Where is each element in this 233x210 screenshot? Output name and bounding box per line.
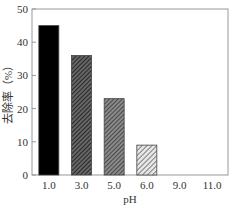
x-tick-label: 11.0: [203, 179, 222, 191]
y-tick-label: 0: [23, 169, 29, 181]
bar-ph-3.0: [72, 55, 92, 175]
y-tick-label: 20: [17, 103, 29, 115]
bar-ph-6.0: [137, 145, 157, 175]
x-axis: 1.03.05.06.09.011.0: [42, 179, 222, 191]
x-tick-label: 3.0: [75, 179, 89, 191]
y-tick-label: 40: [17, 36, 29, 48]
bars: [39, 26, 157, 175]
y-tick-label: 30: [17, 69, 29, 81]
x-tick-label: 6.0: [140, 179, 154, 191]
y-tick-label: 10: [17, 136, 29, 148]
y-axis: 01020304050: [17, 3, 36, 181]
x-axis-label: pH: [123, 193, 137, 205]
bar-ph-1.0: [39, 26, 59, 175]
bar-ph-5.0: [104, 99, 124, 175]
ph-removal-bar-chart: 01020304050 1.03.05.06.09.011.0 pH 去除率（%…: [0, 0, 233, 210]
x-tick-label: 5.0: [107, 179, 121, 191]
plot-frame: [32, 9, 228, 175]
x-tick-label: 9.0: [173, 179, 187, 191]
y-tick-label: 50: [17, 3, 29, 15]
y-axis-label: 去除率（%）: [1, 60, 14, 124]
x-tick-label: 1.0: [42, 179, 56, 191]
